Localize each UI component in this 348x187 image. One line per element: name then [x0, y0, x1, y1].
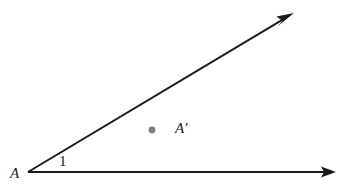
angle-diagram: A 1 A'	[0, 0, 348, 187]
diagram-canvas	[0, 0, 348, 187]
interior-point-dot-icon	[149, 127, 156, 134]
vertex-label-a: A	[10, 166, 19, 181]
diagram-background	[0, 0, 348, 187]
angle-label-1: 1	[59, 154, 67, 169]
point-label-a-prime: A'	[175, 121, 187, 136]
